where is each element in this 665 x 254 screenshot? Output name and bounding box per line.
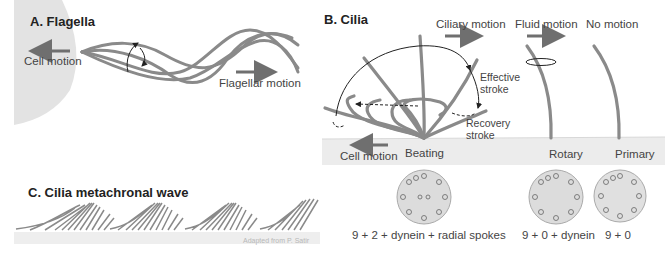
cross-section-primary bbox=[594, 170, 646, 222]
no-motion-label: No motion bbox=[586, 18, 638, 30]
type-rotary-label: Rotary bbox=[549, 148, 583, 160]
flagellum-waves bbox=[82, 30, 298, 82]
structure-rotary-label: 9 + 0 + dynein bbox=[522, 229, 595, 241]
credit-text: Adapted from P. Satir bbox=[243, 237, 309, 244]
structure-beating-label: 9 + 2 + dynein + radial spokes bbox=[352, 229, 506, 241]
type-beating-label: Beating bbox=[405, 147, 444, 159]
effective-stroke-label-2: stroke bbox=[480, 83, 509, 95]
panel-a-title: A. Flagella bbox=[30, 14, 95, 29]
rotation-ellipse bbox=[526, 59, 556, 66]
recovery-stroke-arrow bbox=[356, 104, 418, 106]
structure-primary-label: 9 + 0 bbox=[605, 229, 631, 241]
primary-cilium bbox=[594, 46, 619, 138]
effective-stroke-label-1: Effective bbox=[480, 71, 520, 83]
diagram-graphics bbox=[0, 0, 665, 254]
panel-c-title: C. Cilia metachronal wave bbox=[28, 185, 188, 200]
recovery-stroke-label-2: stroke bbox=[466, 129, 495, 141]
type-primary-label: Primary bbox=[615, 148, 655, 160]
ciliary-motion-label: Ciliary motion bbox=[436, 18, 506, 30]
cell-motion-label-a: Cell motion bbox=[24, 55, 82, 67]
flagellar-motion-label: Flagellar motion bbox=[219, 77, 301, 89]
cell-motion-label-b: Cell motion bbox=[340, 150, 398, 162]
beating-cilium-positions bbox=[325, 36, 486, 138]
recovery-stroke-label-1: Recovery bbox=[466, 117, 510, 129]
panel-b-title: B. Cilia bbox=[324, 12, 368, 27]
fluid-motion-label: Fluid motion bbox=[515, 18, 578, 30]
cross-section-beating bbox=[397, 170, 451, 224]
metachronal-wave bbox=[16, 199, 318, 230]
cross-section-rotary bbox=[529, 170, 583, 224]
